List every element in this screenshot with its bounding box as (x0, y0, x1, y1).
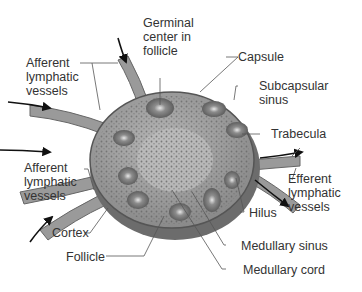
label-hilus: Hilus (249, 206, 277, 220)
label-medullary-sinus: Medullary sinus (241, 239, 328, 253)
lymph-node-diagram: Germinal center in follicle Afferent lym… (0, 0, 362, 292)
label-trabecula: Trabecula (271, 127, 326, 141)
label-subcapsular-sinus: Subcapsular sinus (259, 79, 329, 107)
label-efferent-vessels: Efferent lymphatic vessels (288, 172, 341, 214)
label-cortex: Cortex (52, 226, 89, 240)
label-medullary-cord: Medullary cord (243, 263, 325, 277)
label-follicle: Follicle (66, 250, 105, 264)
label-afferent-vessels-bottom: Afferent lymphatic vessels (24, 161, 77, 203)
label-germinal-center: Germinal center in follicle (143, 16, 194, 58)
label-capsule: Capsule (238, 50, 284, 64)
label-afferent-vessels-top: Afferent lymphatic vessels (26, 56, 79, 98)
